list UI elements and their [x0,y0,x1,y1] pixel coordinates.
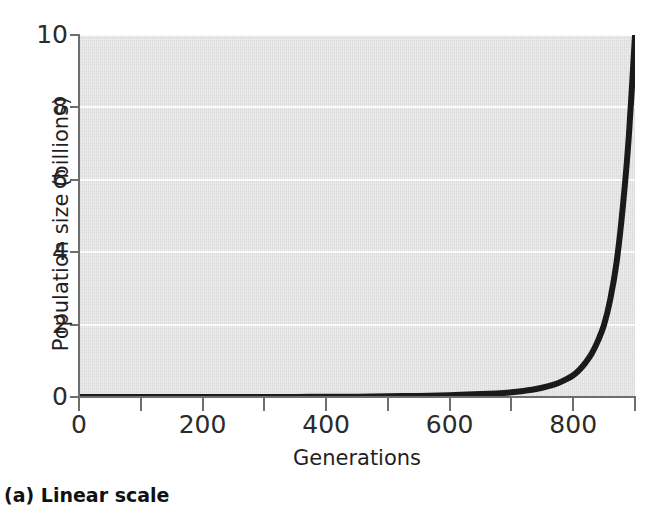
x-tick-minor-300 [263,398,265,411]
x-axis-line [78,396,636,398]
figure-caption: (a) Linear scale [4,484,169,506]
x-tick-label-600: 600 [426,412,474,437]
x-tick-label-400: 400 [302,412,350,437]
x-tick-label-0: 0 [71,412,87,437]
x-tick-minor-500 [387,398,389,411]
y-axis-line [78,34,80,398]
population-growth-curve [79,35,635,397]
y-tick-label-10: 10 [36,22,68,47]
x-tick-label-800: 800 [549,412,597,437]
y-axis-title: Population size (billions) [49,59,73,389]
x-tick-minor-700 [510,398,512,411]
x-tick-minor-900 [634,398,636,411]
x-tick-label-200: 200 [179,412,227,437]
plot-area [79,35,635,397]
x-axis-title: Generations [79,446,635,470]
figure-linear-scale-population-growth: 0246810 0200400600800 Generations Popula… [0,0,653,513]
y-tick-10 [70,34,79,36]
x-tick-minor-100 [140,398,142,411]
